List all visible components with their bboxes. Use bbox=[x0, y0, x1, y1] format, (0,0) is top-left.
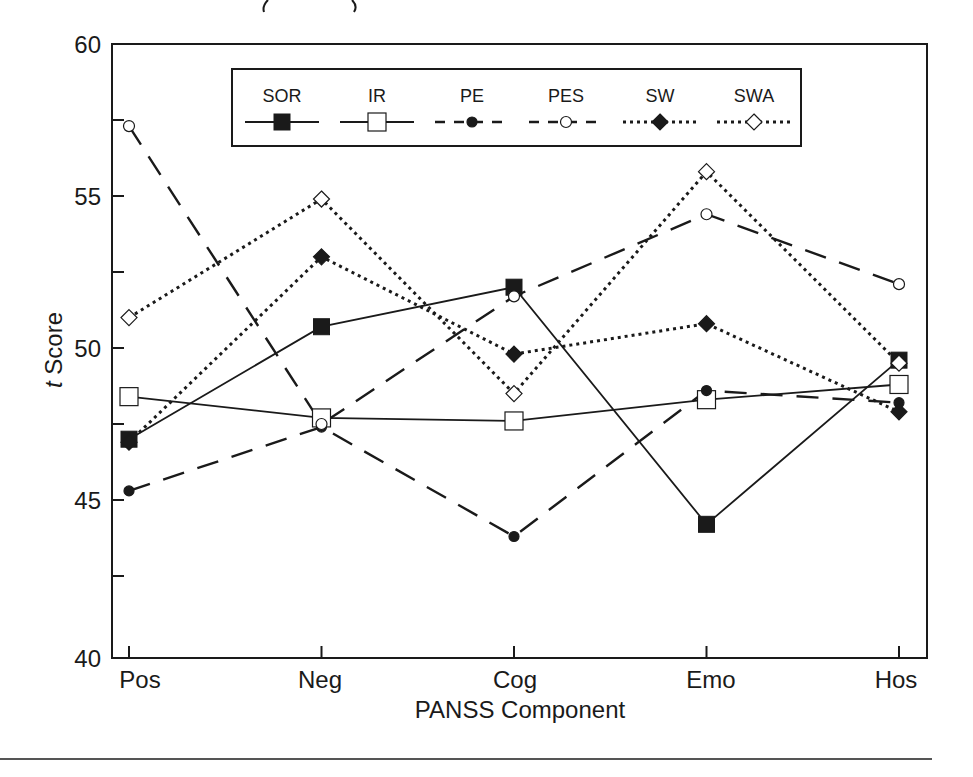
data-point-ir-cog bbox=[505, 412, 523, 430]
data-point-pes-emo bbox=[701, 209, 712, 220]
y-axis-title-rest: Score bbox=[40, 312, 67, 381]
y-tick-label-50: 50 bbox=[74, 335, 101, 362]
legend-label-pes: PES bbox=[548, 86, 584, 106]
chart: 60 55 50 45 40 t Score Pos Neg Cog Emo H… bbox=[0, 0, 973, 777]
data-point-sw-cog bbox=[506, 346, 522, 362]
x-tick-label-emo: Emo bbox=[686, 666, 735, 693]
data-point-sw-hos bbox=[891, 404, 907, 420]
legend-label-sw: SW bbox=[646, 86, 675, 106]
data-point-pes-cog bbox=[509, 291, 520, 302]
series-line-pes bbox=[129, 126, 899, 424]
data-point-pe-pos bbox=[124, 486, 134, 496]
legend: SOR IR PE PES SW SWA bbox=[232, 69, 801, 146]
legend-marker-pes-icon bbox=[561, 117, 572, 128]
x-tick-label-cog: Cog bbox=[493, 666, 537, 693]
legend-marker-sor-icon bbox=[274, 114, 290, 130]
x-axis-title: PANSS Component bbox=[415, 696, 626, 723]
x-tick-label-pos: Pos bbox=[119, 666, 160, 693]
legend-label-pe: PE bbox=[460, 86, 484, 106]
series-markers-ir bbox=[120, 375, 908, 429]
data-point-pes-hos bbox=[894, 279, 905, 290]
x-tick-label-neg: Neg bbox=[298, 666, 342, 693]
data-point-pe-emo bbox=[702, 386, 712, 396]
y-axis bbox=[112, 120, 124, 576]
data-point-ir-hos bbox=[890, 375, 908, 393]
data-point-pe-cog bbox=[509, 531, 519, 541]
y-tick-label-60: 60 bbox=[74, 31, 101, 58]
data-point-swa-neg bbox=[314, 191, 330, 207]
data-point-sw-emo bbox=[699, 316, 715, 332]
series-markers-pes bbox=[124, 121, 905, 430]
data-point-sor-neg bbox=[314, 319, 330, 335]
x-axis bbox=[129, 646, 899, 658]
legend-marker-ir-icon bbox=[368, 113, 386, 131]
y-tick-label-45: 45 bbox=[74, 487, 101, 514]
x-tick-label-hos: Hos bbox=[875, 666, 918, 693]
x-tick-labels: Pos Neg Cog Emo Hos bbox=[119, 666, 917, 693]
y-tick-label-55: 55 bbox=[74, 183, 101, 210]
series-markers-sor bbox=[121, 279, 907, 532]
legend-label-ir: IR bbox=[368, 86, 386, 106]
series-pes bbox=[129, 126, 899, 424]
legend-marker-pe-icon bbox=[467, 117, 477, 127]
data-point-pes-pos bbox=[124, 121, 135, 132]
y-tick-labels: 60 55 50 45 40 bbox=[74, 31, 101, 672]
series-sor bbox=[129, 287, 899, 524]
y-axis-title: t Score bbox=[40, 312, 67, 388]
legend-label-swa: SWA bbox=[734, 86, 774, 106]
data-point-pes-neg bbox=[316, 419, 327, 430]
clipped-title-fragment bbox=[264, 0, 356, 12]
legend-box bbox=[232, 69, 801, 146]
data-point-sor-emo bbox=[699, 516, 715, 532]
data-point-ir-pos bbox=[120, 388, 138, 406]
data-point-swa-pos bbox=[121, 310, 137, 326]
y-tick-label-40: 40 bbox=[74, 645, 101, 672]
series-layer bbox=[120, 121, 908, 542]
legend-label-sor: SOR bbox=[262, 86, 301, 106]
series-line-sor bbox=[129, 287, 899, 524]
